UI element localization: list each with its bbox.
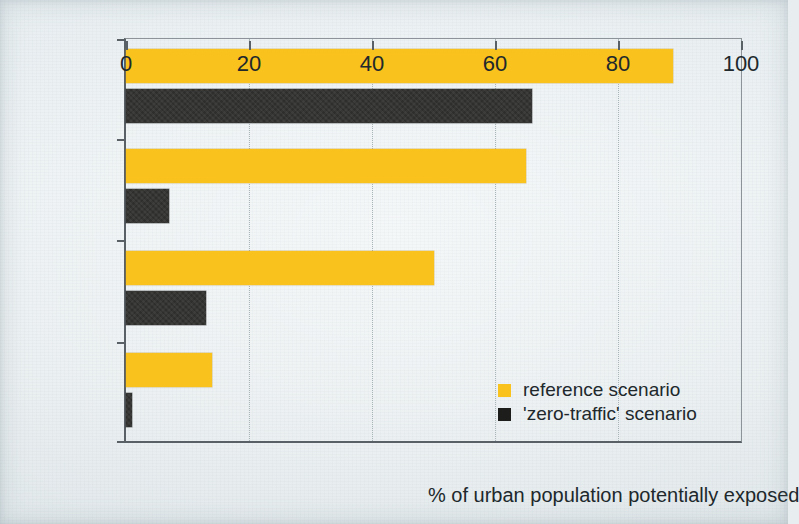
- legend-label-reference-scenario: reference scenario: [523, 379, 680, 401]
- bar-group-benzene: [126, 251, 741, 331]
- x-axis-tick-label-0: 0: [120, 51, 132, 77]
- x-axis-tick-label-20: 20: [237, 51, 261, 77]
- bar-group-pm10: [126, 49, 741, 129]
- x-axis-tick-label-40: 40: [360, 51, 384, 77]
- bar-co-reference: [126, 353, 212, 387]
- x-axis-tick-0: [126, 41, 128, 50]
- x-axis-tick-40: [372, 41, 374, 50]
- square-yellow-swatch: [498, 384, 511, 397]
- bar-no2-reference: [126, 149, 526, 183]
- legend-label-zero-traffic-scenario: 'zero-traffic' scenario: [523, 403, 697, 425]
- x-axis-tick-100: [741, 41, 743, 50]
- y-axis-tick-4: [117, 441, 126, 443]
- chart-legend: reference scenario 'zero-traffic' scenar…: [498, 378, 697, 426]
- bar-pm10-zero-traffic: [126, 89, 532, 123]
- x-axis-tick-20: [249, 41, 251, 50]
- x-axis-tick-80: [618, 41, 620, 50]
- bar-co-zero-traffic: [126, 393, 132, 427]
- y-axis-tick-0: [117, 39, 126, 41]
- y-axis-tick-3: [117, 342, 126, 344]
- bar-no2-zero-traffic: [126, 189, 169, 223]
- x-axis-tick-label-60: 60: [483, 51, 507, 77]
- x-axis-tick-60: [495, 41, 497, 50]
- x-axis-tick-label-100: 100: [723, 51, 760, 77]
- y-axis-tick-1: [117, 139, 126, 141]
- y-axis-tick-2: [117, 240, 126, 242]
- legend-item-zero-traffic-scenario: 'zero-traffic' scenario: [498, 402, 697, 426]
- bar-benzene-reference: [126, 251, 434, 285]
- x-axis-tick-label-80: 80: [606, 51, 630, 77]
- bar-benzene-zero-traffic: [126, 291, 206, 325]
- bar-pm10-reference: [126, 49, 673, 83]
- bar-group-no2: [126, 149, 741, 229]
- square-black-swatch: [498, 408, 511, 421]
- x-axis-title: % of urban population potentially expose…: [428, 484, 799, 507]
- legend-item-reference-scenario: reference scenario: [498, 378, 697, 402]
